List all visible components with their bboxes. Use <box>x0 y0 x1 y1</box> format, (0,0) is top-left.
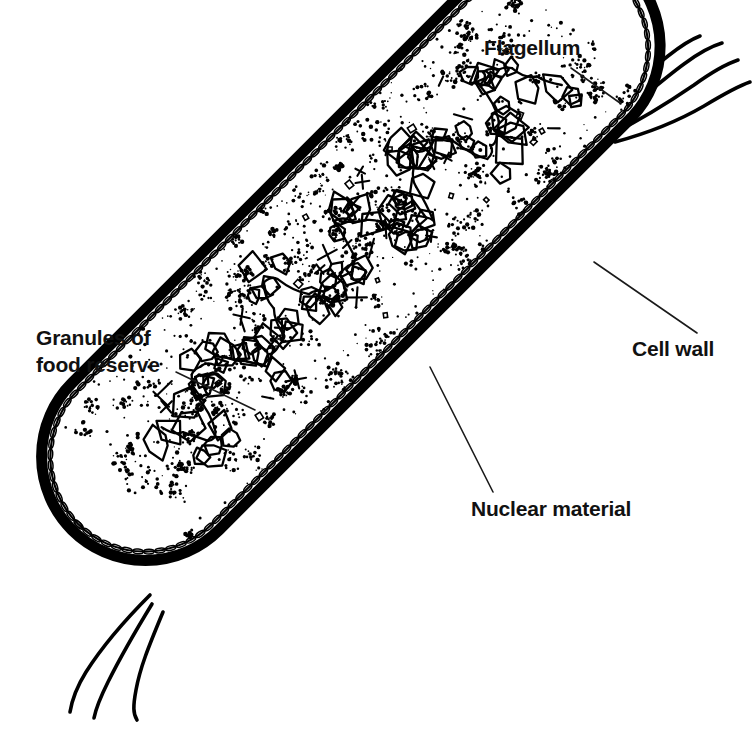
label-cell-wall: Cell wall <box>632 337 714 360</box>
label-flagellum: Flagellum <box>484 36 580 59</box>
label-granules-line-1: Granules of <box>36 326 152 349</box>
diagram-canvas: Flagellum Cell wall Granules of food res… <box>0 0 755 754</box>
label-nuclear-material: Nuclear material <box>471 497 631 520</box>
label-granules-line-2: food reserve <box>36 353 160 376</box>
bacterium-diagram: Flagellum Cell wall Granules of food res… <box>0 0 755 754</box>
